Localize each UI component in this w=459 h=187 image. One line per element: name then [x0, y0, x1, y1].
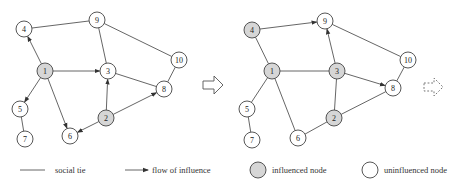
node-1: 1	[37, 63, 53, 79]
node-label: 1	[270, 67, 274, 76]
tie-edge-1-6	[275, 78, 295, 130]
node-1: 1	[264, 63, 280, 79]
legend-flow-of-influence-label: flow of influence	[152, 165, 211, 175]
node-8: 8	[385, 80, 401, 96]
influence-edge-1-6	[48, 78, 67, 128]
influenced-node-icon	[250, 162, 266, 178]
tie-edge-10-8	[168, 67, 176, 82]
node-4: 4	[244, 22, 260, 38]
node-label: 7	[23, 135, 27, 144]
tie-edge-9-3	[99, 28, 107, 63]
transition-arrow-icon	[203, 76, 223, 94]
tie-edge-9-10	[104, 24, 172, 57]
tie-edge-4-1	[256, 37, 269, 64]
node-2: 2	[326, 110, 342, 126]
node-label: 3	[106, 67, 110, 76]
influence-edge-4-9	[260, 22, 317, 29]
node-3: 3	[100, 63, 116, 79]
node-9: 9	[89, 12, 105, 28]
tie-edge-9-10	[332, 24, 401, 56]
node-3: 3	[329, 63, 345, 79]
influence-edge-2-3	[106, 79, 107, 110]
influence-edge-1-5	[25, 78, 41, 102]
tie-edge-10-8	[397, 67, 404, 81]
tie-edge-2-6	[305, 122, 327, 134]
legend-social-tie-label: social tie	[55, 165, 86, 175]
graph-before: 12345678910	[12, 12, 187, 147]
legend-uninfluenced-node-label: uninfluenced node	[384, 165, 447, 175]
influence-edge-3-8	[345, 73, 385, 85]
influence-edge-2-6	[78, 122, 99, 133]
legend: social tie flow of influence influenced …	[20, 162, 447, 178]
node-label: 10	[175, 56, 183, 65]
node-label: 4	[22, 25, 26, 34]
node-8: 8	[156, 81, 172, 97]
node-4: 4	[16, 21, 32, 37]
node-label: 1	[43, 67, 47, 76]
node-label: 6	[296, 134, 300, 143]
node-label: 2	[332, 114, 336, 123]
node-label: 5	[245, 105, 249, 114]
node-label: 8	[162, 85, 166, 94]
node-9: 9	[317, 13, 333, 29]
node-10: 10	[171, 52, 187, 68]
tie-edge-3-8	[116, 73, 157, 86]
legend-uninfluenced-node: uninfluenced node	[362, 162, 447, 178]
tie-edge-5-7	[21, 117, 23, 131]
node-label: 8	[391, 84, 395, 93]
influence-diagram: 12345678910 12345678910 social tie flow …	[0, 0, 459, 187]
uninfluenced-node-icon	[362, 162, 378, 178]
node-7: 7	[244, 132, 260, 148]
influence-edge-3-9	[327, 29, 335, 63]
node-6: 6	[290, 130, 306, 146]
node-7: 7	[17, 131, 33, 147]
node-label: 3	[335, 67, 339, 76]
tie-edge-4-9	[32, 21, 89, 28]
tie-edge-5-7	[248, 117, 250, 132]
node-5: 5	[12, 101, 28, 117]
legend-influenced-node-label: influenced node	[272, 165, 327, 175]
node-label: 9	[323, 17, 327, 26]
node-label: 6	[68, 132, 72, 141]
node-label: 9	[95, 16, 99, 25]
node-label: 4	[250, 26, 254, 35]
node-5: 5	[239, 101, 255, 117]
node-2: 2	[98, 110, 114, 126]
node-label: 2	[104, 114, 108, 123]
node-label: 10	[404, 56, 412, 65]
node-10: 10	[400, 52, 416, 68]
node-label: 5	[18, 105, 22, 114]
legend-influenced-node: influenced node	[250, 162, 327, 178]
continuation-arrow-icon	[424, 78, 443, 96]
node-6: 6	[62, 128, 78, 144]
legend-flow-of-influence: flow of influence	[125, 165, 211, 175]
tie-edge-1-5	[251, 78, 267, 103]
influence-edge-2-8	[113, 93, 156, 115]
graph-after: 12345678910	[239, 13, 416, 148]
node-label: 7	[250, 136, 254, 145]
tie-edge-2-8	[341, 92, 386, 115]
tie-edge-2-3	[335, 79, 337, 110]
influence-edge-1-4	[28, 37, 42, 64]
legend-social-tie: social tie	[20, 165, 86, 175]
